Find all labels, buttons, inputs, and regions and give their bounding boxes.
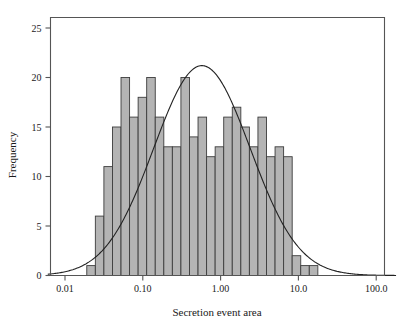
y-tick-label: 25: [32, 23, 42, 34]
histogram-bar: [121, 78, 130, 276]
histogram-bar: [147, 78, 156, 276]
histogram-bar: [267, 157, 276, 276]
histogram-bar: [198, 117, 207, 275]
x-tick-label: 0.01: [56, 283, 74, 294]
x-tick-label: 10.0: [290, 283, 308, 294]
histogram-bar: [301, 266, 310, 276]
x-tick-label: 0.10: [134, 283, 152, 294]
histogram-bar: [224, 117, 233, 275]
histogram-bar: [284, 157, 293, 276]
histogram-bar: [112, 127, 121, 276]
histogram-bar: [104, 167, 113, 276]
y-axis-title: Frequency: [6, 131, 18, 178]
histogram-bar: [138, 97, 147, 275]
y-tick-label: 20: [32, 72, 42, 83]
histogram-bar: [241, 127, 250, 276]
histogram-bar: [258, 117, 267, 275]
histogram-bar: [189, 137, 198, 276]
y-tick-label: 10: [32, 171, 42, 182]
histogram-bar: [130, 117, 139, 275]
histogram-bar: [95, 216, 104, 275]
histogram-figure: 0510152025 0.010.101.0010.0100.0 Secreti…: [0, 0, 397, 323]
histogram-bar: [215, 147, 224, 276]
x-axis-title: Secretion event area: [172, 306, 261, 318]
histogram-bar: [181, 78, 190, 276]
x-tick-label: 100.0: [365, 283, 388, 294]
histogram-bar: [309, 266, 318, 276]
histogram-bar: [207, 157, 216, 276]
x-tick-label: 1.00: [212, 283, 230, 294]
chart-canvas: 0510152025 0.010.101.0010.0100.0 Secreti…: [0, 0, 397, 323]
histogram-bar: [172, 147, 181, 276]
histogram-bar: [164, 147, 173, 276]
histogram-bar: [87, 266, 96, 276]
y-tick-label: 15: [32, 122, 42, 133]
y-tick-label: 5: [37, 221, 42, 232]
histogram-bar: [232, 107, 241, 275]
y-tick-label: 0: [37, 270, 42, 281]
histogram-bar: [292, 256, 301, 276]
